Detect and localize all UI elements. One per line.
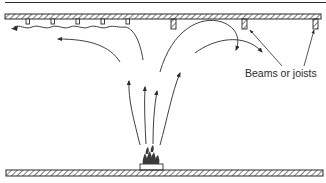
ceiling-slab — [5, 14, 321, 19]
wavy-ceiling-jet — [14, 26, 125, 28]
plume-arrow — [153, 91, 157, 144]
beam — [242, 19, 247, 29]
plume-arrow — [129, 81, 140, 145]
small-joists — [26, 19, 130, 24]
beam — [313, 19, 318, 29]
ceiling-jet-arrow-left-upper — [125, 27, 143, 60]
leader-lines — [250, 30, 314, 66]
fire-platform — [140, 164, 163, 170]
beams-label: Beams or joists — [245, 67, 317, 79]
beam — [171, 19, 176, 29]
flame-icon — [143, 145, 160, 164]
joist — [76, 19, 80, 24]
ceiling-jet-arrow-left — [58, 39, 120, 62]
leader-line — [304, 30, 314, 66]
joist — [126, 19, 130, 24]
joist — [26, 19, 30, 24]
deep-beams — [171, 19, 318, 29]
plume-arrows — [129, 73, 180, 145]
leader-line — [250, 30, 282, 66]
plume-arrow — [145, 87, 146, 144]
fire-source — [140, 145, 163, 170]
joist — [51, 19, 55, 24]
floor-slab — [6, 170, 323, 176]
fire-plume-diagram — [0, 0, 326, 183]
ceiling-jet-arrow-right-low — [195, 40, 262, 53]
joist — [101, 19, 105, 24]
plume-arrow — [160, 73, 180, 145]
